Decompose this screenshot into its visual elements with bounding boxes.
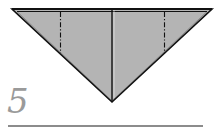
step-divider-rule <box>8 125 203 127</box>
origami-step-panel: 5 <box>0 0 218 132</box>
step-number: 5 <box>7 84 29 118</box>
origami-triangle-diagram <box>0 0 218 132</box>
